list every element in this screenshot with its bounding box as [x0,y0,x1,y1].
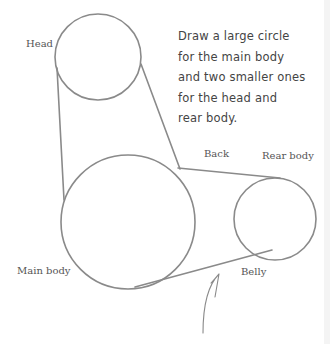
head-circle [55,14,141,100]
rear-body-circle [234,178,316,260]
label-rear-body: Rear body [262,150,314,161]
instruction-line: rear body. [178,108,328,129]
arrow-icon [203,274,219,333]
label-back: Back [204,148,229,159]
neck-front-line [57,68,64,200]
instruction-line: Draw a large circle [178,26,328,47]
label-head: Head [26,38,53,49]
main-body-circle [61,155,195,289]
neck-back-line [141,64,180,169]
label-belly: Belly [241,266,266,277]
instruction-line: for the head and [178,88,328,109]
instruction-line: and two smaller ones [178,67,328,88]
back-line [178,168,280,178]
label-main-body: Main body [17,265,71,276]
instruction-text: Draw a large circle for the main body an… [178,26,328,129]
instruction-line: for the main body [178,47,328,68]
